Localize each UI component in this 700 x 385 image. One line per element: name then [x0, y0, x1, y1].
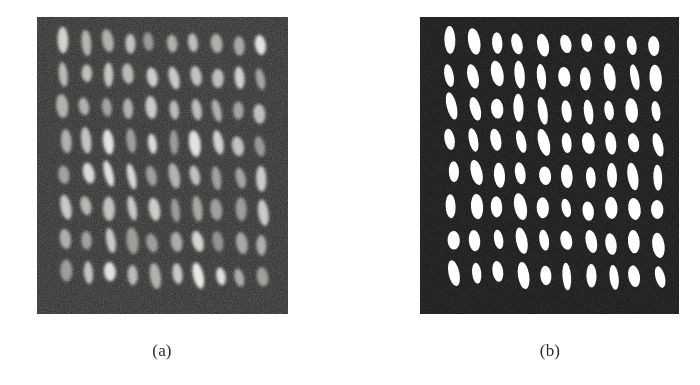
panel-b-image	[420, 17, 679, 314]
panel-a-caption: (a)	[102, 341, 222, 361]
figure-root: (a) (b)	[0, 0, 700, 385]
panel-b-canvas	[420, 17, 679, 314]
panel-b-caption: (b)	[490, 341, 610, 361]
panel-a-image	[37, 17, 288, 314]
panel-a-canvas	[37, 17, 288, 314]
